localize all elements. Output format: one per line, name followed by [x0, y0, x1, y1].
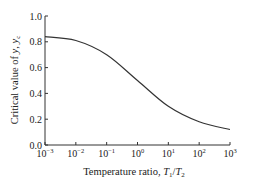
x-tick-label: 10−2 — [67, 147, 84, 159]
x-tick-label: 10−1 — [98, 147, 115, 159]
y-tick-label: 0.8 — [30, 36, 43, 47]
y-tick-label: 1.0 — [30, 11, 43, 22]
x-tick-label: 101 — [162, 147, 175, 159]
x-tick-label: 103 — [223, 147, 236, 159]
chart: 0.00.20.40.60.81.0 10−310−210−1100101102… — [0, 0, 253, 184]
y-tick-label: 0.4 — [30, 88, 43, 99]
y-tick-label: 0.6 — [30, 62, 43, 73]
y-axis-label: Critical value of y, yc — [9, 36, 22, 125]
data-line — [45, 37, 230, 130]
x-tick-label: 100 — [131, 147, 144, 159]
x-tick-label: 102 — [193, 147, 206, 159]
x-tick-label: 10−3 — [37, 147, 54, 159]
y-tick-label: 0.2 — [30, 114, 43, 125]
x-axis-label: Temperature ratio, T1/T2 — [83, 166, 185, 179]
